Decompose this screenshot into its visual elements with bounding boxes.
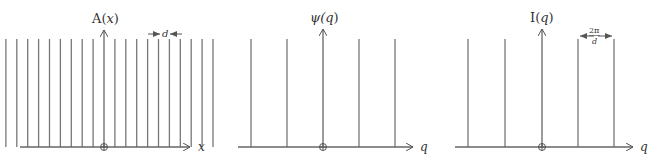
delta-comb-real [0,39,213,147]
diffraction-diagram: A(x) x d ψ(q) q I(q) [0,0,664,163]
spacing-label-numerator: 2π [589,26,599,35]
panel-real-space: A(x) x d [0,11,213,154]
y-label-psi: ψ(q) [310,10,339,25]
spacing-label-d: d [162,28,168,39]
panel-amplitude: ψ(q) q [238,10,428,154]
spacing-label-denominator: d [592,37,597,46]
x-label-q: q [420,140,428,154]
y-label-I: I(q) [530,10,554,25]
x-label: x [198,140,205,154]
x-label-q: q [640,140,648,154]
panel-intensity: I(q) q 2π d [455,10,648,154]
delta-comb-intensity [468,39,614,147]
y-label-A: A(x) [91,11,119,26]
